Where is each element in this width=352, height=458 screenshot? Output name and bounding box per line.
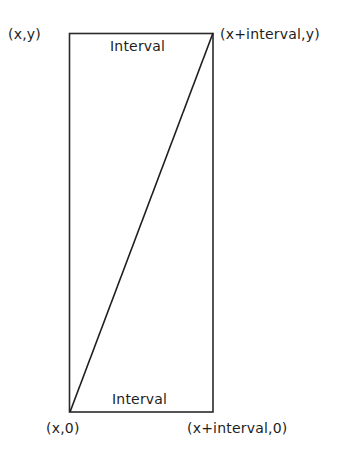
diagonal-line xyxy=(70,33,213,412)
corner-label-top-right: (x+interval,y) xyxy=(220,26,320,42)
corner-label-bottom-right: (x+interval,0) xyxy=(187,420,287,436)
corner-label-top-left: (x,y) xyxy=(8,26,41,42)
interval-diagram: (x,y) (x+interval,y) Interval Interval (… xyxy=(0,0,352,458)
diagram-canvas xyxy=(0,0,352,458)
bottom-interval-label: Interval xyxy=(112,391,167,407)
top-interval-label: Interval xyxy=(110,38,165,54)
corner-label-bottom-left: (x,0) xyxy=(46,420,80,436)
